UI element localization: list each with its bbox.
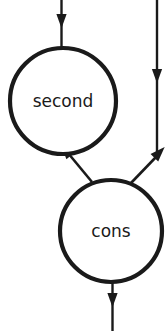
edge-line bbox=[131, 156, 157, 183]
arrowhead-icon bbox=[152, 69, 162, 83]
edge-edge-cons-to-right-channel bbox=[131, 143, 167, 183]
node-graph-diagram: secondcons bbox=[0, 0, 167, 331]
edge-line bbox=[68, 153, 92, 182]
arrowhead-icon bbox=[107, 293, 117, 307]
edge-edge-top-into-second bbox=[56, 0, 66, 48]
node-label-second: second bbox=[33, 91, 94, 111]
diagram-canvas: secondcons bbox=[0, 0, 167, 331]
node-cons[interactable]: cons bbox=[60, 180, 162, 282]
nodes-layer: secondcons bbox=[10, 48, 162, 282]
node-second[interactable]: second bbox=[10, 48, 116, 154]
arrowhead-icon bbox=[56, 14, 66, 28]
node-label-cons: cons bbox=[91, 221, 131, 241]
edge-edge-cons-out-bottom bbox=[107, 282, 117, 331]
edge-edge-right-channel-vertical bbox=[152, 0, 162, 156]
